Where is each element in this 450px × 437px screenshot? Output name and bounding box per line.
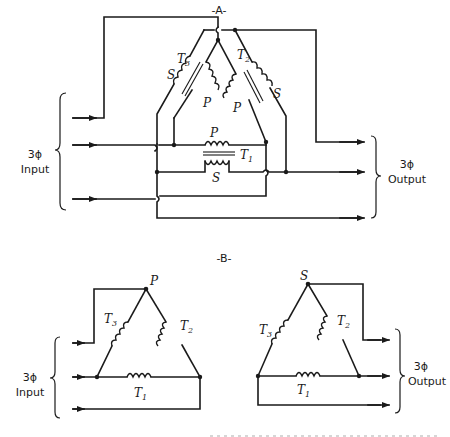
t3-core-b (185, 64, 203, 96)
input-label: Input (21, 163, 50, 176)
b-s-t2-top (308, 284, 327, 316)
panel-a: -A- T3 S P T2 S (21, 4, 427, 218)
b-p-t3-bottom (97, 346, 112, 377)
panel-a-title: -A- (212, 4, 227, 17)
b-p-t2-label: T2 (180, 319, 193, 335)
b-p-right-node (198, 375, 202, 379)
t2-secondary-label: S (273, 87, 281, 101)
b-p-t3-top (128, 289, 146, 322)
b-s-right-node (357, 374, 361, 378)
t3-primary-label: P (202, 96, 212, 110)
b-output-brace (395, 329, 405, 413)
b-s-t2-coil (317, 316, 327, 340)
t1-secondary-coil (205, 161, 229, 165)
output-label: Output (388, 173, 427, 186)
panel-b: -B- P T3 T2 T1 3ϕ (16, 252, 447, 418)
t3-pri-bottom (174, 90, 192, 118)
b-s-t3-top (288, 284, 308, 320)
t1-primary-coil (205, 142, 229, 146)
input-phase-label: 3ϕ (28, 148, 42, 161)
input-brace (55, 93, 66, 210)
t1-sec-left (157, 161, 205, 172)
b-input-label: Input (16, 386, 45, 399)
b-p-t1-label: T1 (134, 386, 147, 402)
t3-pri-top (206, 40, 218, 62)
t2-secondary-coil (252, 62, 272, 86)
t3-secondary-label: S (167, 68, 175, 82)
sec-left-bus (157, 144, 360, 218)
t2-primary-coil (223, 74, 236, 98)
pri-right-bus (160, 142, 268, 196)
t2-label: T2 (237, 48, 250, 64)
b-s-t3-label: T3 (259, 323, 272, 339)
b-p-t3-label: T3 (104, 312, 117, 328)
b-output-line-1 (308, 284, 380, 340)
b-s-t3-coil (272, 320, 289, 344)
b-s-t2-bottom (343, 340, 359, 376)
b-output-label: Output (408, 375, 447, 388)
t2-pri-bottom (249, 100, 266, 142)
delta-delta-transformer-diagram: -A- T3 S P T2 S (0, 0, 450, 437)
t1-label: T1 (240, 148, 253, 164)
t3-sec-bottom (157, 84, 174, 144)
t3-primary-coil (206, 62, 219, 90)
t1-primary-label: P (209, 126, 219, 140)
output-phase-label: 3ϕ (400, 158, 414, 171)
t2-core-a (247, 70, 263, 101)
b-p-t2-coil (156, 322, 166, 346)
b-output-phase-label: 3ϕ (414, 360, 428, 373)
b-primary-apex-label: P (149, 274, 159, 288)
t2-pri-top (218, 40, 236, 74)
t3-sec-top (190, 30, 204, 56)
b-s-t1-label: T1 (297, 383, 310, 399)
output-2-node (284, 170, 288, 174)
b-s-t2-label: T2 (337, 314, 350, 330)
b-p-t2-top (146, 289, 166, 322)
b-p-t1-coil (127, 374, 151, 378)
b-input-brace (50, 337, 60, 418)
input-line-2a (73, 145, 157, 151)
b-s-t1-coil (296, 373, 320, 377)
b-s-t3-bottom (258, 344, 272, 376)
secondary-delta: S T3 T2 T1 3ϕ Output (256, 269, 447, 413)
input-line-1 (73, 17, 218, 118)
t2-core-b (244, 72, 260, 103)
t1-secondary-label: S (212, 171, 220, 185)
b-p-t2-bottom (182, 345, 200, 377)
panel-b-title: -B- (216, 252, 231, 265)
b-input-phase-label: 3ϕ (23, 371, 37, 384)
b-secondary-apex-label: S (300, 269, 308, 283)
t1-pri-left (174, 118, 205, 145)
primary-delta: P T3 T2 T1 3ϕ Input (16, 274, 202, 418)
t3-label: T3 (177, 52, 190, 68)
b-p-left-node (95, 375, 99, 379)
output-brace (371, 136, 381, 218)
t2-primary-label: P (232, 101, 242, 115)
output-line-1 (222, 30, 360, 142)
b-output-line-3 (258, 376, 380, 405)
